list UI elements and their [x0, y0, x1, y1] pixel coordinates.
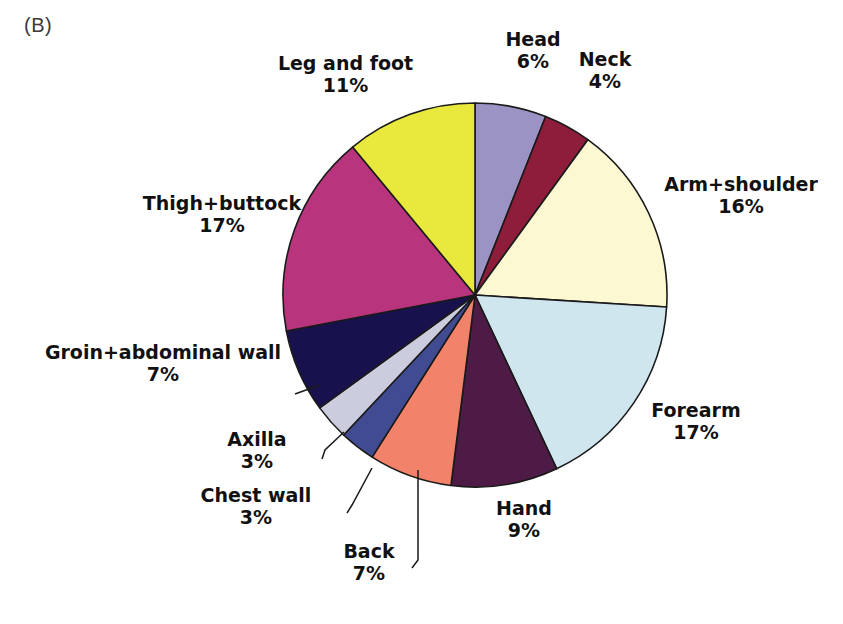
slice-label-axilla: Axilla 3%	[194, 428, 320, 473]
slice-label-neck: Neck 4%	[561, 48, 649, 93]
slice-label-neck-name: Neck	[561, 48, 649, 70]
slice-label-back: Back 7%	[330, 540, 408, 585]
slice-label-groin-abdominal-wall-name: Groin+abdominal wall	[30, 341, 296, 363]
slice-label-chest-wall-value: 3%	[168, 506, 344, 528]
slice-label-back-name: Back	[330, 540, 408, 562]
slice-label-leg-and-foot-name: Leg and foot	[243, 52, 448, 74]
leader-line-chest-wall	[347, 468, 372, 513]
slice-label-groin-abdominal-wall-value: 7%	[30, 363, 296, 385]
slice-label-forearm: Forearm 17%	[634, 399, 758, 444]
slice-label-thigh-buttock-name: Thigh+buttock	[113, 192, 331, 214]
slice-label-arm-shoulder-value: 16%	[645, 195, 837, 217]
leader-line-axilla	[322, 432, 344, 459]
slice-label-hand-value: 9%	[482, 519, 566, 541]
pie-slices-group	[283, 103, 667, 487]
slice-label-axilla-value: 3%	[194, 450, 320, 472]
slice-label-thigh-buttock: Thigh+buttock 17%	[113, 192, 331, 237]
slice-label-axilla-name: Axilla	[194, 428, 320, 450]
leader-line-back	[412, 470, 418, 568]
slice-label-thigh-buttock-value: 17%	[113, 214, 331, 236]
slice-label-chest-wall-name: Chest wall	[168, 484, 344, 506]
slice-label-back-value: 7%	[330, 562, 408, 584]
slice-label-forearm-value: 17%	[634, 421, 758, 443]
figure-panel: (B) Leg and foot 11% Thigh+buttock 17% G…	[0, 0, 843, 624]
slice-label-neck-value: 4%	[561, 70, 649, 92]
slice-label-arm-shoulder: Arm+shoulder 16%	[645, 173, 837, 218]
slice-label-arm-shoulder-name: Arm+shoulder	[645, 173, 837, 195]
slice-label-leg-and-foot: Leg and foot 11%	[243, 52, 448, 97]
slice-label-hand-name: Hand	[482, 497, 566, 519]
slice-label-groin-abdominal-wall: Groin+abdominal wall 7%	[30, 341, 296, 386]
slice-label-chest-wall: Chest wall 3%	[168, 484, 344, 529]
slice-label-leg-and-foot-value: 11%	[243, 74, 448, 96]
slice-label-hand: Hand 9%	[482, 497, 566, 542]
slice-label-forearm-name: Forearm	[634, 399, 758, 421]
